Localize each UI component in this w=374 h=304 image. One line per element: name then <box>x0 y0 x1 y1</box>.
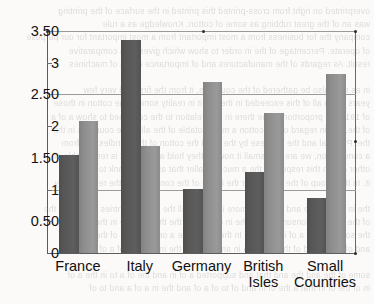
y-tick-mark <box>47 126 52 127</box>
bar <box>307 198 327 253</box>
axis-marker <box>354 30 357 33</box>
y-tick-label: 2.50 <box>31 87 59 102</box>
axis-marker <box>354 252 357 255</box>
bar <box>245 172 265 253</box>
plot-area <box>47 31 356 253</box>
bar-group <box>121 31 160 253</box>
x-axis-label-line: Small <box>275 258 374 274</box>
bar <box>326 74 346 253</box>
y-tick-label: 1.50 <box>31 151 59 166</box>
y-tick-label: 0.50 <box>31 214 59 229</box>
x-axis-label: SmallCountries <box>275 258 374 290</box>
y-tick-mark <box>47 221 52 222</box>
bar <box>121 40 141 253</box>
bar-group <box>245 31 284 253</box>
baseline <box>47 253 356 254</box>
bar-group <box>59 31 98 253</box>
bar <box>141 146 161 253</box>
axis-marker <box>46 30 49 33</box>
y-tick-label: 3.50 <box>31 24 59 39</box>
x-axis-label-line: Countries <box>275 274 374 290</box>
bar <box>59 155 79 253</box>
bar-chart: 00.5011.5022.5033.50 FranceItalyGermanyB… <box>0 0 374 304</box>
y-tick-label: 3 <box>51 55 59 70</box>
bar-group <box>183 31 222 253</box>
bar-group <box>307 31 346 253</box>
y-tick-mark <box>47 63 52 64</box>
bar <box>264 113 284 253</box>
bar <box>183 189 203 253</box>
y-tick-label: 2 <box>51 119 59 134</box>
y-tick-mark <box>47 190 52 191</box>
bar <box>203 82 223 253</box>
axis-marker <box>202 30 205 33</box>
bar <box>79 121 99 253</box>
y-tick-label: 1 <box>51 182 59 197</box>
axis-marker <box>354 140 357 143</box>
